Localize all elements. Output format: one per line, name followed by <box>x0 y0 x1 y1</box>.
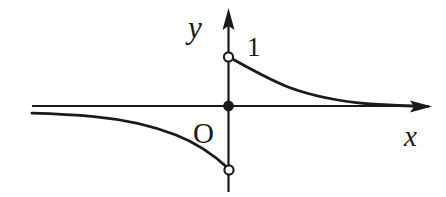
origin-label: O <box>193 119 214 148</box>
y-intercept-value-label: 1 <box>247 34 261 61</box>
open-circle-marker-lower <box>224 165 233 174</box>
curve-right-branch <box>229 57 428 106</box>
origin-filled-point-marker <box>223 101 234 112</box>
open-circle-marker-upper <box>224 52 233 61</box>
coordinate-plane-svg <box>0 0 446 197</box>
y-axis-label: y <box>188 12 202 43</box>
graph-figure: y x 1 O <box>0 0 446 197</box>
x-axis-label: x <box>404 122 417 151</box>
